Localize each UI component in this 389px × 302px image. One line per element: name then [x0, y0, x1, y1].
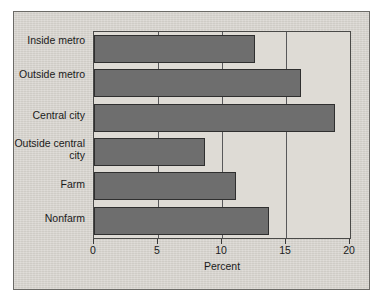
- bar-band-3: [94, 135, 350, 169]
- category-label-3: Outside central city: [11, 137, 85, 161]
- x-axis-title: Percent: [93, 260, 351, 272]
- bar-outside-central-city[interactable]: [94, 138, 205, 166]
- bar-band-4: [94, 169, 350, 203]
- bar-farm[interactable]: [94, 172, 236, 200]
- tick-label-5: 5: [154, 244, 160, 256]
- bar-band-2: [94, 101, 350, 135]
- category-label-1: Outside metro: [11, 68, 85, 80]
- category-label-0: Inside metro: [11, 34, 85, 46]
- bar-band-5: [94, 204, 350, 238]
- category-label-5: Nonfarm: [11, 212, 85, 224]
- plot-area: [93, 31, 351, 239]
- chart-panel: Inside metro Outside metro Central city …: [13, 11, 370, 290]
- category-label-4: Farm: [11, 178, 85, 190]
- bar-central-city[interactable]: [94, 104, 335, 132]
- bar-band-0: [94, 32, 350, 66]
- bar-outside-metro[interactable]: [94, 69, 301, 97]
- bar-band-1: [94, 66, 350, 100]
- figure: Inside metro Outside metro Central city …: [0, 0, 389, 302]
- tick-label-0: 0: [90, 244, 96, 256]
- category-label-2: Central city: [11, 109, 85, 121]
- tick-label-20: 20: [343, 244, 355, 256]
- tick-label-10: 10: [215, 244, 227, 256]
- bar-series: [94, 32, 350, 238]
- bar-nonfarm[interactable]: [94, 207, 269, 235]
- bar-inside-metro[interactable]: [94, 35, 255, 63]
- tick-label-15: 15: [279, 244, 291, 256]
